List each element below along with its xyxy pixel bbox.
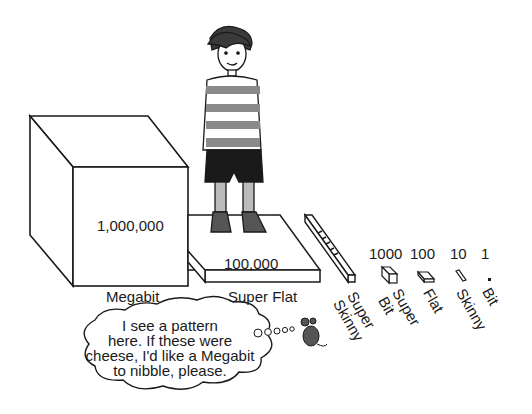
- super-bit-value: 1000: [369, 245, 402, 262]
- super-bit-cube: [382, 267, 397, 283]
- bit-cube: [488, 278, 491, 281]
- flat-block: [418, 272, 434, 282]
- boy-illustration: [203, 26, 266, 232]
- flat-value: 100: [410, 245, 435, 262]
- megabit-value: 1,000,000: [97, 217, 164, 234]
- bit-value: 1: [481, 245, 489, 262]
- bubble-line: cheese, I'd like a Megabit: [72, 348, 268, 363]
- skinny-value: 10: [450, 245, 467, 262]
- mouse-illustration: [301, 318, 327, 346]
- super-flat-value: 100,000: [224, 255, 278, 272]
- bubble-line: to nibble, please.: [72, 363, 268, 378]
- megabit-cube: [30, 116, 188, 286]
- bubble-line: I see a pattern: [72, 318, 268, 333]
- thought-bubble-text: I see a pattern here. If these were chee…: [72, 318, 268, 378]
- megabit-label: Megabit: [106, 288, 159, 305]
- super-flat-label: Super Flat: [228, 288, 297, 305]
- skinny-rod: [456, 270, 466, 281]
- bubble-line: here. If these were: [72, 333, 268, 348]
